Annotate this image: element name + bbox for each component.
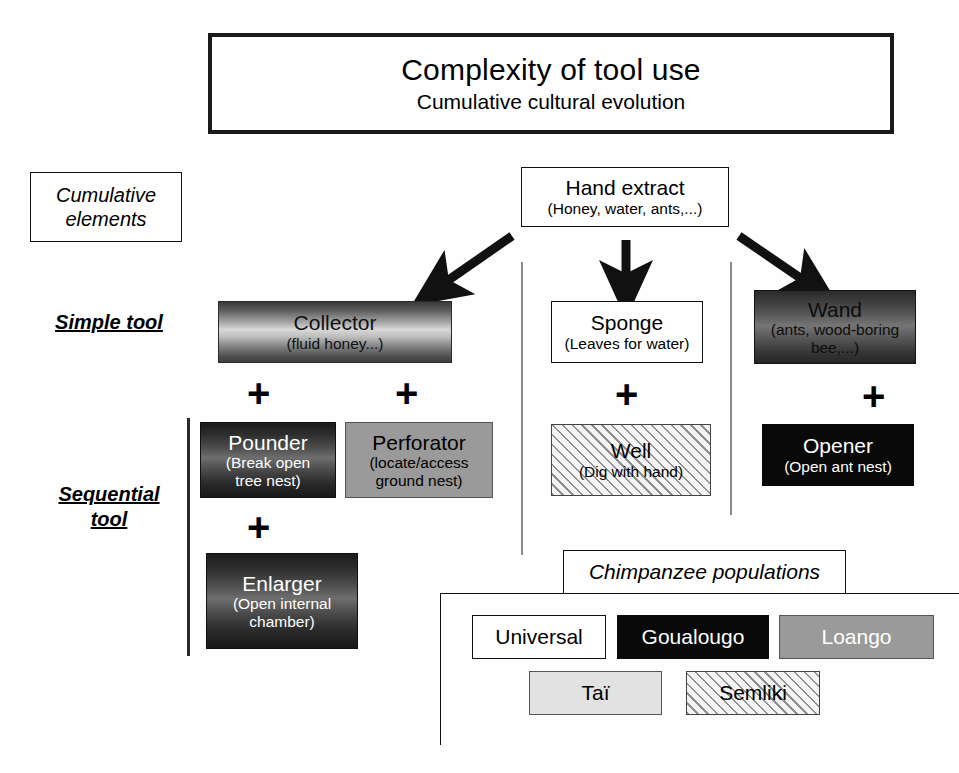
node-sponge-name: Sponge — [591, 311, 663, 335]
node-hand-extract-sub: (Honey, water, ants,...) — [548, 200, 703, 218]
node-wand-sub2: bee,...) — [811, 339, 859, 357]
arrow-hand-to-wand — [739, 236, 812, 286]
node-opener-name: Opener — [803, 434, 873, 458]
node-wand[interactable]: Wand (ants, wood-boring bee,...) — [754, 290, 916, 364]
node-collector[interactable]: Collector (fluid honey...) — [218, 301, 452, 363]
legend-item-goualougo-label: Goualougo — [642, 625, 745, 649]
row-label-cumulative-elements: Cumulative elements — [30, 172, 182, 242]
legend-item-tai-label: Taï — [581, 681, 609, 705]
legend-item-loango[interactable]: Loango — [779, 615, 934, 659]
node-collector-sub: (fluid honey...) — [286, 335, 383, 353]
node-opener[interactable]: Opener (Open ant nest) — [762, 424, 914, 486]
title-main-text: Complexity of tool use — [401, 53, 701, 86]
page-title: Complexity of tool use Cumulative cultur… — [208, 33, 894, 134]
node-well[interactable]: Well (Dig with hand) — [551, 424, 711, 496]
legend-item-semliki-label: Semliki — [719, 681, 787, 705]
node-sponge[interactable]: Sponge (Leaves for water) — [551, 301, 703, 363]
node-enlarger-sub2: chamber) — [249, 613, 314, 631]
legend-title: Chimpanzee populations — [563, 550, 846, 594]
column-divider-right — [730, 262, 732, 515]
node-perforator[interactable]: Perforator (locate/access ground nest) — [345, 422, 493, 498]
node-wand-name: Wand — [808, 298, 862, 322]
title-sub-text: Cumulative cultural evolution — [417, 89, 685, 114]
row-label-sequential-tool: Sequential tool — [34, 482, 184, 532]
plus-operator-sponge-well: + — [615, 374, 638, 414]
node-enlarger[interactable]: Enlarger (Open internal chamber) — [206, 553, 358, 649]
node-enlarger-sub: (Open internal — [233, 595, 331, 613]
node-perforator-sub2: ground nest) — [375, 472, 462, 490]
node-pounder[interactable]: Pounder (Break open tree nest) — [200, 422, 336, 498]
node-opener-sub: (Open ant nest) — [784, 458, 892, 476]
plus-operator-pounder-enlarger: + — [247, 507, 270, 547]
node-pounder-name: Pounder — [228, 431, 307, 455]
node-pounder-sub2: tree nest) — [235, 472, 300, 490]
plus-operator-wand-opener: + — [862, 376, 885, 416]
legend-item-tai[interactable]: Taï — [529, 671, 662, 715]
sequential-tool-bracket — [187, 418, 190, 656]
sequential-line-1: Sequential — [34, 482, 184, 507]
legend-item-universal-label: Universal — [495, 625, 583, 649]
diagram-canvas: Complexity of tool use Cumulative cultur… — [0, 0, 959, 773]
cumulative-line-1: Cumulative — [56, 183, 156, 207]
node-wand-sub: (ants, wood-boring — [771, 321, 899, 339]
node-enlarger-name: Enlarger — [242, 572, 321, 596]
node-perforator-name: Perforator — [372, 431, 465, 455]
node-sponge-sub: (Leaves for water) — [565, 335, 690, 353]
node-well-name: Well — [611, 439, 651, 463]
node-collector-name: Collector — [294, 311, 377, 335]
node-hand-extract-name: Hand extract — [565, 176, 684, 200]
sequential-line-2: tool — [34, 507, 184, 532]
arrow-hand-to-collector — [437, 236, 512, 288]
node-perforator-sub: (locate/access — [369, 454, 468, 472]
plus-operator-collector-pounder: + — [247, 373, 270, 413]
plus-operator-collector-perforator: + — [395, 373, 418, 413]
legend-item-universal[interactable]: Universal — [472, 615, 606, 659]
row-label-simple-tool: Simple tool — [34, 310, 184, 335]
legend-item-goualougo[interactable]: Goualougo — [617, 615, 769, 659]
legend-item-loango-label: Loango — [821, 625, 891, 649]
legend-item-semliki[interactable]: Semliki — [686, 671, 820, 715]
node-hand-extract[interactable]: Hand extract (Honey, water, ants,...) — [521, 167, 729, 227]
column-divider-middle — [521, 262, 523, 555]
cumulative-line-2: elements — [65, 207, 146, 231]
node-pounder-sub: (Break open — [226, 454, 310, 472]
node-well-sub: (Dig with hand) — [579, 463, 683, 481]
